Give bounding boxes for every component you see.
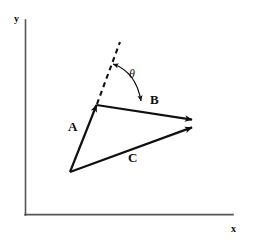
vector-diagram-figure: A B C θ y x bbox=[0, 0, 253, 241]
theta-angle-label: θ bbox=[129, 68, 135, 80]
vector-diagram-canvas bbox=[0, 0, 253, 241]
y-axis-label: y bbox=[14, 14, 19, 24]
theta-angle-arc bbox=[113, 64, 141, 101]
x-axis-label: x bbox=[231, 224, 236, 234]
vector-b-label: B bbox=[150, 93, 159, 106]
vector-a-line bbox=[70, 105, 97, 172]
axis-group bbox=[25, 20, 233, 215]
extension-of-a-dashed-line bbox=[97, 42, 120, 104]
vector-c-label: C bbox=[128, 151, 138, 164]
vector-a-label: A bbox=[68, 120, 78, 133]
vector-b-line bbox=[97, 105, 193, 120]
